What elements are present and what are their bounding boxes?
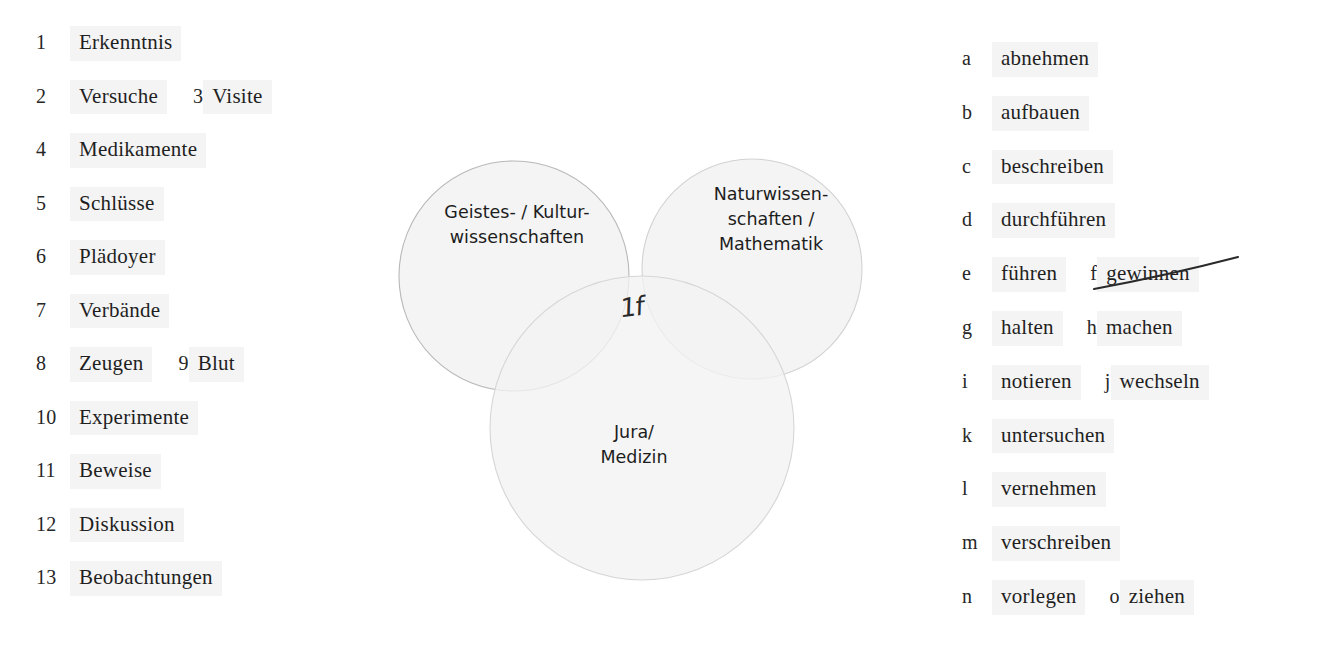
word-chip[interactable]: Diskussion	[70, 508, 184, 543]
word-label: beschreiben	[1001, 154, 1104, 178]
word-label: Verbände	[79, 298, 160, 322]
word-label: Schlüsse	[79, 191, 155, 215]
item-marker: b	[962, 101, 992, 124]
list-item: aabnehmen	[962, 42, 1098, 77]
word-chip[interactable]: untersuchen	[992, 419, 1114, 454]
item-marker: 12	[36, 513, 70, 536]
word-label: Beobachtungen	[79, 565, 213, 589]
item-marker-secondary: h	[1087, 316, 1097, 339]
list-item: 2Versuche3Visite	[36, 80, 272, 115]
word-chip[interactable]: halten	[992, 311, 1063, 346]
word-chip[interactable]: Medikamente	[70, 133, 206, 168]
word-chip[interactable]: wechseln	[1111, 365, 1209, 400]
list-item: 8Zeugen9Blut	[36, 347, 244, 382]
item-marker: g	[962, 316, 992, 339]
item-marker-secondary: 3	[193, 85, 203, 108]
venn-diagram: Geistes- / Kultur- wissenschaften Naturw…	[386, 124, 886, 584]
item-marker: i	[962, 370, 992, 393]
word-chip[interactable]: Plädoyer	[70, 240, 165, 275]
list-item: 4Medikamente	[36, 133, 206, 168]
list-item: 10Experimente	[36, 401, 198, 436]
item-marker: n	[962, 585, 992, 608]
word-chip[interactable]: führen	[992, 257, 1066, 292]
word-label: halten	[1001, 315, 1054, 339]
item-marker: e	[962, 262, 992, 285]
item-marker: m	[962, 531, 992, 554]
word-label: Medikamente	[79, 137, 197, 161]
word-chip[interactable]: Beobachtungen	[70, 561, 222, 596]
word-chip[interactable]: ziehen	[1120, 580, 1194, 615]
word-label: Versuche	[79, 84, 158, 108]
item-marker: 1	[36, 31, 70, 54]
word-chip[interactable]: machen	[1097, 311, 1182, 346]
word-label: führen	[1001, 261, 1057, 285]
list-item: 12Diskussion	[36, 508, 184, 543]
word-label: abnehmen	[1001, 46, 1089, 70]
word-label: aufbauen	[1001, 100, 1080, 124]
word-label: Blut	[198, 351, 235, 375]
word-chip[interactable]: Verbände	[70, 294, 169, 329]
word-label: notieren	[1001, 369, 1072, 393]
word-label: gewinnen	[1106, 261, 1190, 285]
word-chip[interactable]: Versuche	[70, 80, 167, 115]
word-chip[interactable]: aufbauen	[992, 96, 1089, 131]
word-label: durchführen	[1001, 207, 1106, 231]
list-item: ddurchführen	[962, 203, 1115, 238]
word-chip[interactable]: Zeugen	[70, 347, 152, 382]
word-label: Zeugen	[79, 351, 143, 375]
list-item: ghaltenhmachen	[962, 311, 1182, 346]
word-chip[interactable]: vorlegen	[992, 580, 1085, 615]
list-item: mverschreiben	[962, 526, 1120, 561]
word-label: verschreiben	[1001, 530, 1111, 554]
venn-label-natural-sciences: Naturwissen- schaften / Mathematik	[682, 182, 860, 257]
word-chip[interactable]: Visite	[203, 80, 271, 115]
word-label: Beweise	[79, 458, 152, 482]
item-marker: 10	[36, 406, 70, 429]
word-label: vorlegen	[1001, 584, 1076, 608]
venn-handwritten-annotation: 1f	[620, 290, 645, 323]
word-chip[interactable]: notieren	[992, 365, 1081, 400]
word-chip[interactable]: abnehmen	[992, 42, 1098, 77]
item-marker: c	[962, 155, 992, 178]
item-marker: 13	[36, 566, 70, 589]
item-marker: 7	[36, 299, 70, 322]
word-chip[interactable]: verschreiben	[992, 526, 1120, 561]
list-item: 7Verbände	[36, 294, 169, 329]
list-item: 11Beweise	[36, 454, 161, 489]
word-chip[interactable]: beschreiben	[992, 150, 1113, 185]
word-chip[interactable]: Experimente	[70, 401, 198, 436]
item-marker: l	[962, 477, 992, 500]
word-label: Diskussion	[79, 512, 175, 536]
word-label: Experimente	[79, 405, 189, 429]
word-label: ziehen	[1129, 584, 1185, 608]
item-marker: 6	[36, 245, 70, 268]
word-chip[interactable]: durchführen	[992, 203, 1115, 238]
item-marker: 2	[36, 85, 70, 108]
list-item: baufbauen	[962, 96, 1089, 131]
item-marker-secondary: 9	[178, 352, 188, 375]
word-chip[interactable]: Schlüsse	[70, 187, 164, 222]
word-chip-crossed-out[interactable]: gewinnen	[1097, 257, 1199, 292]
item-marker: 5	[36, 192, 70, 215]
list-item: cbeschreiben	[962, 150, 1113, 185]
list-item: 13Beobachtungen	[36, 561, 222, 596]
list-item: kuntersuchen	[962, 419, 1114, 454]
word-label: machen	[1106, 315, 1173, 339]
list-item: inotierenjwechseln	[962, 365, 1209, 400]
word-chip[interactable]: Blut	[189, 347, 244, 382]
venn-label-law-medicine: Jura/ Medizin	[564, 420, 704, 470]
list-item: 6Plädoyer	[36, 240, 165, 275]
list-item: eführenfgewinnen	[962, 257, 1199, 292]
word-label: untersuchen	[1001, 423, 1105, 447]
word-chip[interactable]: Beweise	[70, 454, 161, 489]
word-label: Erkenntnis	[79, 30, 172, 54]
list-item: lvernehmen	[962, 472, 1106, 507]
list-item: 1Erkenntnis	[36, 26, 181, 61]
list-item: 5Schlüsse	[36, 187, 164, 222]
word-chip[interactable]: Erkenntnis	[70, 26, 181, 61]
word-label: Visite	[212, 84, 262, 108]
item-marker: 8	[36, 352, 70, 375]
item-marker: 11	[36, 459, 70, 482]
word-chip[interactable]: vernehmen	[992, 472, 1106, 507]
item-marker: k	[962, 424, 992, 447]
